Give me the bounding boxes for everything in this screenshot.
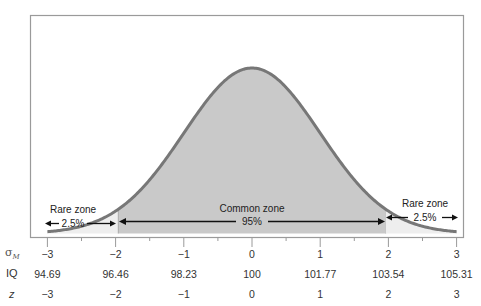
z-tick-label: −2 — [110, 288, 122, 300]
iq-tick-label: 94.69 — [34, 268, 60, 280]
sigma-tick-label: 2 — [385, 248, 391, 260]
z-tick-label: −3 — [41, 288, 53, 300]
z-tick-labels: −3−2−10123 — [41, 288, 459, 300]
sigma-tick-labels: −3−2−10123 — [41, 248, 459, 260]
sigma-tick-label: −3 — [41, 248, 53, 260]
x-axis-ticks — [47, 237, 456, 247]
iq-tick-label: 96.46 — [102, 268, 128, 280]
z-tick-label: −1 — [178, 288, 190, 300]
common-zone-percent: 95% — [242, 216, 262, 227]
z-tick-label: 3 — [454, 288, 460, 300]
sigma-tick-label: 0 — [249, 248, 255, 260]
right-rare-zone-percent: 2.5% — [414, 212, 437, 223]
iq-tick-label: 100 — [243, 268, 261, 280]
left-rare-zone-percent: 2.5% — [62, 218, 85, 229]
iq-tick-label: 105.31 — [441, 268, 473, 280]
sigma-tick-label: −2 — [110, 248, 122, 260]
sigma-tick-label: 1 — [317, 248, 323, 260]
iq-tick-labels: 94.6996.4698.23100101.77103.54105.31 — [34, 268, 473, 280]
z-tick-label: 2 — [385, 288, 391, 300]
right-rare-zone-title: Rare zone — [402, 198, 449, 209]
sigma-row-label: σM — [5, 246, 21, 261]
sigma-tick-label: 3 — [454, 248, 460, 260]
normal-distribution-chart: Rare zone 2.5% Common zone 95% Rare zone… — [0, 0, 481, 306]
z-row-label: z — [8, 288, 15, 300]
iq-tick-label: 103.54 — [372, 268, 404, 280]
left-rare-zone-title: Rare zone — [50, 204, 97, 215]
iq-tick-label: 98.23 — [171, 268, 197, 280]
z-tick-label: 0 — [249, 288, 255, 300]
common-zone-title: Common zone — [219, 203, 284, 214]
z-tick-label: 1 — [317, 288, 323, 300]
iq-tick-label: 101.77 — [304, 268, 336, 280]
row-labels: σM IQ z — [5, 246, 21, 300]
sigma-tick-label: −1 — [178, 248, 190, 260]
iq-row-label: IQ — [6, 267, 18, 279]
